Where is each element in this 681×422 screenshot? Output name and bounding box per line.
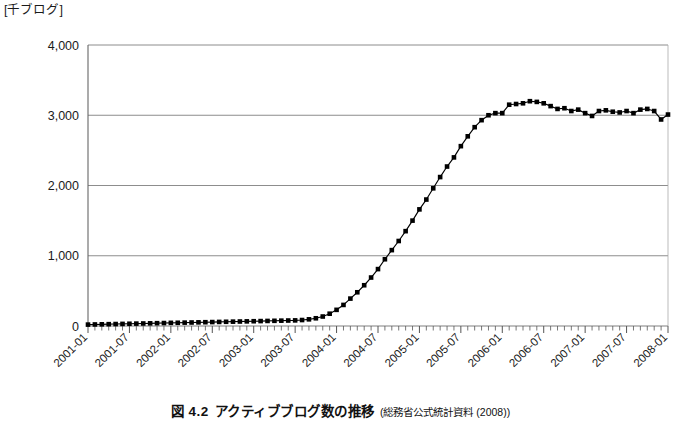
- data-point-marker: [417, 207, 422, 212]
- data-point-marker: [348, 296, 353, 301]
- data-point-marker: [486, 113, 491, 118]
- data-point-marker: [583, 111, 588, 116]
- data-point-marker: [272, 319, 277, 324]
- data-point-marker: [597, 109, 602, 114]
- data-point-marker: [555, 107, 560, 112]
- data-point-marker: [286, 318, 291, 323]
- y-tick-label: 0: [72, 320, 79, 334]
- x-tick-label: 2007-07: [590, 331, 628, 369]
- data-point-marker: [113, 322, 118, 327]
- figure-caption: 図 4.2アクティブブログ数の推移(総務省公式統計資料 (2008)): [0, 401, 681, 422]
- data-point-marker: [265, 319, 270, 324]
- x-tick-label: 2001-07: [93, 331, 131, 369]
- data-point-marker: [445, 164, 450, 169]
- data-point-marker: [169, 321, 174, 326]
- data-point-marker: [521, 101, 526, 106]
- data-point-marker: [134, 321, 139, 326]
- data-point-marker: [610, 109, 615, 114]
- data-point-marker: [196, 320, 201, 325]
- data-point-marker: [659, 117, 664, 122]
- x-tick-label: 2005-07: [424, 331, 462, 369]
- data-point-marker: [203, 320, 208, 325]
- x-tick-label: 2005-01: [383, 331, 421, 369]
- x-tick-label: 2001-01: [51, 331, 89, 369]
- data-point-marker: [258, 319, 263, 324]
- data-point-marker: [314, 316, 319, 321]
- data-point-marker: [307, 317, 312, 322]
- data-point-marker: [403, 229, 408, 234]
- data-point-marker: [175, 320, 180, 325]
- x-tick-label: 2006-07: [507, 331, 545, 369]
- data-point-marker: [459, 144, 464, 149]
- series-line: [88, 101, 668, 324]
- data-point-marker: [362, 283, 367, 288]
- x-tick-label: 2002-07: [175, 331, 213, 369]
- data-point-marker: [210, 320, 215, 325]
- data-point-marker: [224, 319, 229, 324]
- data-point-marker: [617, 110, 622, 115]
- data-point-marker: [541, 101, 546, 106]
- data-point-marker: [279, 318, 284, 323]
- chart-plot-area: 01,0002,0003,0004,000 2001-012001-072002…: [0, 0, 681, 400]
- data-point-marker: [514, 102, 519, 107]
- data-point-marker: [300, 318, 305, 323]
- data-point-marker: [666, 112, 671, 117]
- data-point-marker: [465, 134, 470, 139]
- data-point-marker: [645, 107, 650, 112]
- data-point-marker: [562, 106, 567, 111]
- x-tick-label: 2004-01: [300, 331, 338, 369]
- data-point-marker: [162, 321, 167, 326]
- data-point-marker: [431, 186, 436, 191]
- y-tick-label: 2,000: [48, 179, 79, 193]
- data-point-marker: [569, 109, 574, 114]
- data-point-marker: [652, 109, 657, 114]
- data-point-marker: [500, 111, 505, 116]
- data-point-marker: [548, 104, 553, 109]
- data-point-marker: [327, 311, 332, 316]
- data-point-marker: [383, 257, 388, 262]
- data-point-marker: [182, 320, 187, 325]
- caption-number: 図 4.2: [171, 404, 209, 419]
- x-tick-label: 2008-01: [631, 331, 669, 369]
- line-chart-svg: 01,0002,0003,0004,000 2001-012001-072002…: [0, 0, 681, 400]
- data-point-marker: [217, 320, 222, 325]
- x-tick-label: 2002-01: [134, 331, 172, 369]
- data-point-marker: [590, 114, 595, 119]
- data-point-marker: [390, 248, 395, 253]
- data-point-marker: [355, 290, 360, 295]
- data-point-marker: [86, 322, 91, 327]
- data-point-marker: [493, 111, 498, 116]
- data-point-marker: [189, 320, 194, 325]
- x-tick-label: 2003-01: [217, 331, 255, 369]
- x-tick-labels: 2001-012001-072002-012002-072003-012003-…: [51, 331, 669, 369]
- x-tick-label: 2004-07: [341, 331, 379, 369]
- data-point-marker: [452, 155, 457, 160]
- data-point-marker: [424, 197, 429, 202]
- data-point-marker: [376, 267, 381, 272]
- figure-active-blog-count: [千ブログ] 01,0002,0003,0004,000 2001-012001…: [0, 0, 681, 422]
- data-point-marker: [638, 107, 643, 112]
- caption-source: (総務省公式統計資料 (2008)): [380, 406, 510, 418]
- data-point-marker: [320, 314, 325, 319]
- data-point-marker: [507, 102, 512, 107]
- data-point-marker: [100, 322, 105, 327]
- data-point-marker: [631, 111, 636, 116]
- data-point-marker: [624, 109, 629, 114]
- data-point-marker: [238, 319, 243, 324]
- data-point-marker: [410, 218, 415, 223]
- data-point-marker: [576, 107, 581, 112]
- y-tick-labels: 01,0002,0003,0004,000: [48, 39, 79, 334]
- x-tick-marks: [88, 326, 668, 333]
- gridlines: [88, 45, 668, 326]
- data-point-marker: [472, 125, 477, 130]
- data-point-marker: [155, 321, 160, 326]
- data-point-marker: [528, 99, 533, 104]
- data-point-marker: [141, 321, 146, 326]
- data-point-marker: [120, 322, 125, 327]
- data-point-marker: [93, 322, 98, 327]
- data-point-marker: [604, 108, 609, 113]
- y-tick-label: 1,000: [48, 249, 79, 263]
- x-tick-label: 2006-01: [465, 331, 503, 369]
- data-point-marker: [148, 321, 153, 326]
- data-point-marker: [341, 303, 346, 308]
